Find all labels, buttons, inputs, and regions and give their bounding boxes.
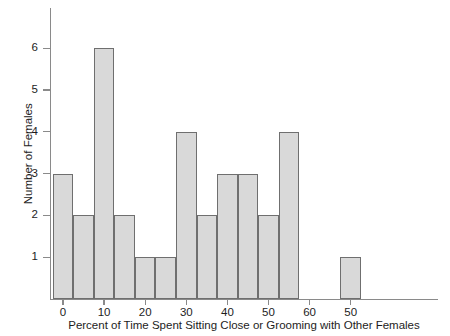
x-tick-mark: [350, 300, 351, 305]
x-tick-mark: [227, 300, 228, 305]
x-tick-mark: [268, 300, 269, 305]
y-tick-mark: [43, 215, 51, 216]
x-tick-label: 20: [125, 307, 165, 319]
histogram-bar: [340, 257, 361, 299]
histogram-bar: [176, 132, 197, 299]
histogram-bar: [238, 174, 259, 299]
y-axis-title: Number of Females: [23, 74, 35, 234]
x-tick-mark: [145, 300, 146, 305]
histogram-bar: [114, 215, 135, 299]
x-tick-label: 50: [249, 307, 289, 319]
histogram-bar: [135, 257, 156, 299]
x-tick-mark: [309, 300, 310, 305]
x-tick-mark: [103, 300, 104, 305]
histogram-bar: [279, 132, 300, 299]
x-tick-label: 30: [166, 307, 206, 319]
histogram-chart: 123456 010203040506050 Number of Females…: [0, 0, 450, 336]
histogram-bar: [155, 257, 176, 299]
y-tick-label: 6: [14, 42, 38, 54]
histogram-bar: [73, 215, 94, 299]
y-tick-mark: [43, 257, 51, 258]
x-axis-title: Percent of Time Spent Sitting Close or G…: [50, 320, 438, 332]
y-tick-mark: [43, 173, 51, 174]
y-tick-mark: [43, 131, 51, 132]
histogram-bar: [258, 215, 279, 299]
x-tick-mark: [186, 300, 187, 305]
x-tick-label: 40: [207, 307, 247, 319]
y-tick-mark: [43, 48, 51, 49]
histogram-bar: [53, 174, 74, 299]
histogram-bar: [94, 48, 115, 299]
histogram-bar: [217, 174, 238, 299]
x-tick-label: 60: [290, 307, 330, 319]
histogram-bar: [197, 215, 218, 299]
x-tick-label: 0: [43, 307, 83, 319]
x-tick-label: 10: [84, 307, 124, 319]
x-tick-label: 50: [331, 307, 371, 319]
x-tick-mark: [62, 300, 63, 305]
x-axis-line: [50, 299, 438, 300]
y-tick-label: 1: [14, 251, 38, 263]
plot-area: 123456 010203040506050 Number of Females…: [0, 0, 450, 336]
y-tick-mark: [43, 89, 51, 90]
